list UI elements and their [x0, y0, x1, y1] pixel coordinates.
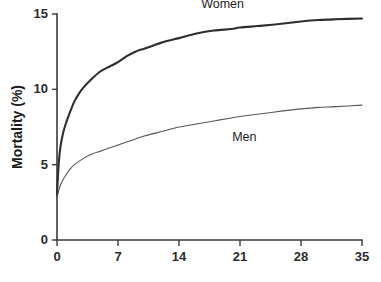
y-axis-ticks: 051015 [34, 6, 57, 247]
x-tick-label: 28 [294, 249, 308, 264]
y-axis-title: Mortality (%) [9, 85, 25, 169]
x-tick-label: 14 [172, 249, 187, 264]
x-axis-group: 0714212835 [53, 240, 369, 264]
series-label-men: Men [232, 130, 256, 144]
x-tick-label: 35 [355, 249, 369, 264]
mortality-chart: 051015 0714212835 Women Men Mortality (%… [0, 0, 381, 282]
x-tick-label: 21 [233, 249, 247, 264]
x-tick-label: 0 [53, 249, 60, 264]
x-axis-ticks: 0714212835 [53, 240, 369, 264]
y-tick-label: 0 [41, 232, 48, 247]
chart-canvas: 051015 0714212835 Women Men Mortality (%… [0, 0, 381, 282]
y-axis-group: 051015 [34, 6, 57, 247]
y-tick-label: 10 [34, 81, 48, 96]
x-tick-label: 7 [114, 249, 121, 264]
series-line-men [57, 105, 362, 198]
series-line-women [57, 19, 362, 195]
y-tick-label: 15 [34, 6, 48, 21]
series-group [57, 19, 362, 198]
y-tick-label: 5 [41, 157, 48, 172]
series-label-women: Women [201, 0, 244, 11]
